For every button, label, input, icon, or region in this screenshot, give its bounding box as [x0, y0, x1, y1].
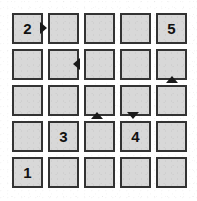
grid-cell-r3-c3[interactable]: 4 — [120, 121, 151, 152]
arrow-up-icon — [166, 76, 178, 83]
grid-cell-label: 2 — [23, 21, 31, 36]
grid-cell-r4-c0[interactable]: 1 — [12, 157, 43, 188]
grid-cell-r0-c3[interactable] — [120, 13, 151, 44]
grid-cell-r2-c4[interactable] — [156, 85, 187, 116]
grid-cell-label: 1 — [23, 165, 31, 180]
grid-cell-r3-c1[interactable]: 3 — [48, 121, 79, 152]
grid-cell-r2-c1[interactable] — [48, 85, 79, 116]
grid-cell-r3-c0[interactable] — [12, 121, 43, 152]
grid-cell-r3-c2[interactable] — [84, 121, 115, 152]
arrow-down-icon — [127, 112, 139, 119]
grid-cell-r4-c1[interactable] — [48, 157, 79, 188]
grid-cell-r4-c4[interactable] — [156, 157, 187, 188]
grid-cell-r1-c2[interactable] — [84, 49, 115, 80]
grid-cell-r3-c4[interactable] — [156, 121, 187, 152]
grid-cell-r0-c0[interactable]: 2 — [12, 13, 43, 44]
grid-cell-label: 4 — [131, 129, 139, 144]
grid-cell-r2-c0[interactable] — [12, 85, 43, 116]
grid-cell-label: 5 — [167, 21, 175, 36]
grid-cell-r0-c2[interactable] — [84, 13, 115, 44]
grid-cell-r0-c1[interactable] — [48, 13, 79, 44]
grid-cell-r0-c4[interactable]: 5 — [156, 13, 187, 44]
grid-cell-r4-c3[interactable] — [120, 157, 151, 188]
arrow-left-icon — [73, 58, 80, 70]
grid-cell-r1-c0[interactable] — [12, 49, 43, 80]
grid-cell-label: 3 — [59, 129, 67, 144]
arrow-right-icon — [40, 22, 47, 34]
grid-cell-r4-c2[interactable] — [84, 157, 115, 188]
arrow-up-icon — [91, 112, 103, 119]
grid-cell-r1-c3[interactable] — [120, 49, 151, 80]
puzzle-board: 25341 — [0, 0, 197, 201]
